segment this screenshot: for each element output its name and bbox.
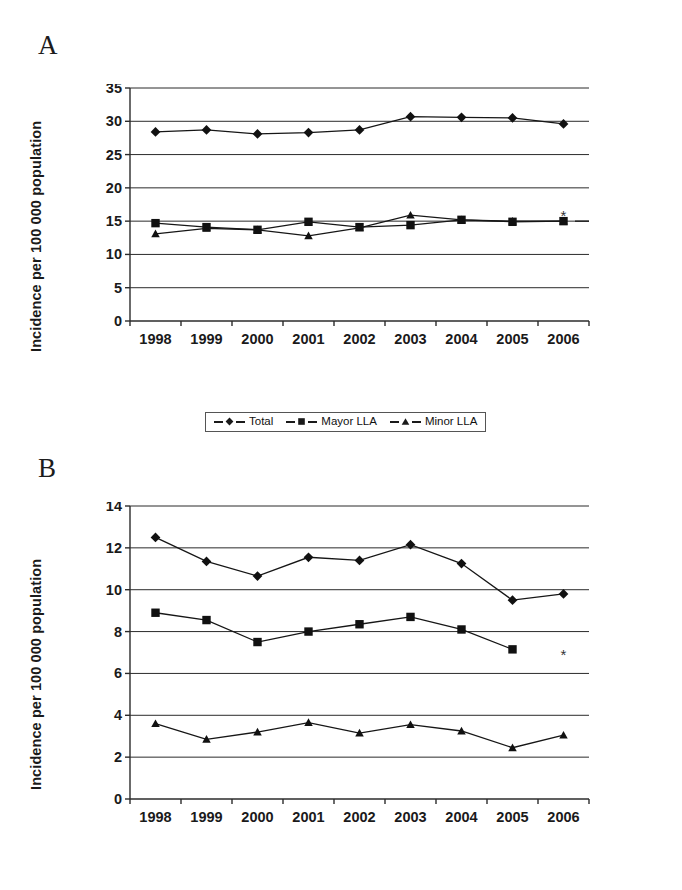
data-point-diamond: [508, 595, 518, 605]
y-tick-label: 35: [106, 84, 122, 96]
y-tick-label: 8: [114, 624, 122, 640]
x-tick-label: 1998: [139, 331, 171, 347]
data-point-square: [151, 609, 159, 617]
data-point-diamond: [355, 556, 365, 566]
panel-a: A Incidence per 100 000 population 05101…: [0, 0, 682, 445]
data-point-triangle: [406, 720, 415, 728]
data-point-diamond: [304, 552, 314, 562]
chart-a-svg: 0510152025303519981999200020012002200320…: [96, 84, 591, 361]
x-tick-label: 2006: [547, 809, 579, 825]
data-point-diamond: [559, 589, 569, 599]
legend-line-icon: [412, 421, 421, 423]
y-tick-label: 25: [106, 147, 122, 163]
data-point-square: [202, 616, 210, 624]
data-point-square: [253, 638, 261, 646]
data-point-diamond: [151, 127, 161, 137]
data-point-square: [406, 221, 414, 229]
data-point-diamond: [304, 128, 314, 138]
y-tick-label: 30: [106, 113, 122, 129]
x-tick-label: 2004: [445, 809, 477, 825]
y-tick-label: 10: [106, 582, 122, 598]
chart-a-legend: Total Mayor LLA Minor LLA: [205, 412, 486, 432]
data-point-triangle: [406, 211, 415, 219]
data-point-diamond: [457, 559, 467, 569]
y-tick-label: 12: [106, 540, 122, 556]
legend-label-mayor-lla: Mayor LLA: [319, 416, 377, 428]
y-tick-label: 6: [114, 665, 122, 681]
diamond-marker-icon: [225, 417, 234, 426]
data-point-diamond: [253, 571, 263, 581]
x-tick-label: 2003: [394, 809, 426, 825]
x-tick-label: 2001: [292, 331, 324, 347]
data-point-diamond: [559, 119, 569, 129]
legend-line-icon: [236, 421, 245, 423]
data-point-square: [355, 620, 363, 628]
y-tick-label: 15: [106, 213, 122, 229]
data-point-diamond: [457, 112, 467, 122]
panel-a-y-axis-label: Incidence per 100 000 population: [28, 121, 44, 352]
data-point-triangle: [304, 718, 313, 726]
x-tick-label: 2002: [343, 809, 375, 825]
data-point-square: [151, 219, 159, 227]
data-point-diamond: [151, 533, 161, 543]
legend-line-icon: [308, 421, 317, 423]
legend-label-minor-lla: Minor LLA: [423, 416, 477, 428]
y-tick-label: 10: [106, 246, 122, 262]
y-tick-label: 14: [106, 502, 122, 514]
data-point-square: [406, 613, 414, 621]
chart-b-plot: 0246810121419981999200020012002200320042…: [96, 502, 591, 839]
data-point-diamond: [406, 112, 416, 122]
data-point-diamond: [253, 129, 263, 139]
legend-line-icon: [286, 421, 295, 423]
data-point-square: [304, 218, 312, 226]
legend-label-total: Total: [247, 416, 273, 428]
y-tick-label: 0: [114, 313, 122, 329]
x-tick-label: 2005: [496, 331, 528, 347]
data-point-triangle: [151, 719, 160, 727]
series-line-total: [156, 537, 564, 600]
legend-line-icon: [214, 421, 223, 423]
chart-a-plot: 0510152025303519981999200020012002200320…: [96, 84, 591, 361]
legend-entry-mayor-lla: Mayor LLA: [286, 416, 377, 428]
legend-line-icon: [390, 421, 399, 423]
triangle-marker-icon: [401, 417, 410, 426]
y-tick-label: 5: [114, 280, 122, 296]
panel-b: B Incidence per 100 000 population 02468…: [0, 445, 682, 890]
y-tick-label: 20: [106, 180, 122, 196]
data-point-square: [457, 625, 465, 633]
x-tick-label: 2003: [394, 331, 426, 347]
x-tick-label: 1999: [190, 809, 222, 825]
data-point-diamond: [202, 557, 212, 567]
data-point-triangle: [559, 731, 568, 739]
asterisk-annotation: *: [561, 207, 567, 224]
x-tick-label: 1999: [190, 331, 222, 347]
y-tick-label: 4: [114, 707, 122, 723]
x-tick-label: 2005: [496, 809, 528, 825]
square-marker-icon: [297, 417, 306, 426]
panel-b-letter: B: [38, 455, 56, 482]
x-tick-label: 1998: [139, 809, 171, 825]
x-tick-label: 2000: [241, 331, 273, 347]
asterisk-annotation: *: [561, 646, 567, 663]
panel-a-letter: A: [38, 32, 58, 59]
y-tick-label: 0: [114, 791, 122, 807]
x-tick-label: 2000: [241, 809, 273, 825]
legend-entry-total: Total: [214, 416, 273, 428]
x-tick-label: 2004: [445, 331, 477, 347]
x-tick-label: 2002: [343, 331, 375, 347]
data-point-square: [304, 627, 312, 635]
y-tick-label: 2: [114, 749, 122, 765]
data-point-diamond: [355, 125, 365, 135]
data-point-square: [508, 645, 516, 653]
x-tick-label: 2006: [547, 331, 579, 347]
x-tick-label: 2001: [292, 809, 324, 825]
legend-entry-minor-lla: Minor LLA: [390, 416, 477, 428]
data-point-diamond: [202, 125, 212, 135]
chart-b-svg: 0246810121419981999200020012002200320042…: [96, 502, 591, 839]
panel-b-y-axis-label: Incidence per 100 000 population: [28, 559, 44, 790]
